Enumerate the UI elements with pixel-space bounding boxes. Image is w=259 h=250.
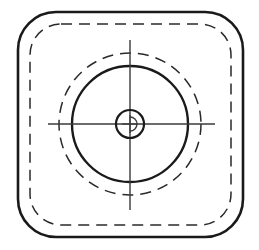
technical-drawing-canvas [0, 0, 259, 250]
drawing-svg [0, 0, 259, 250]
